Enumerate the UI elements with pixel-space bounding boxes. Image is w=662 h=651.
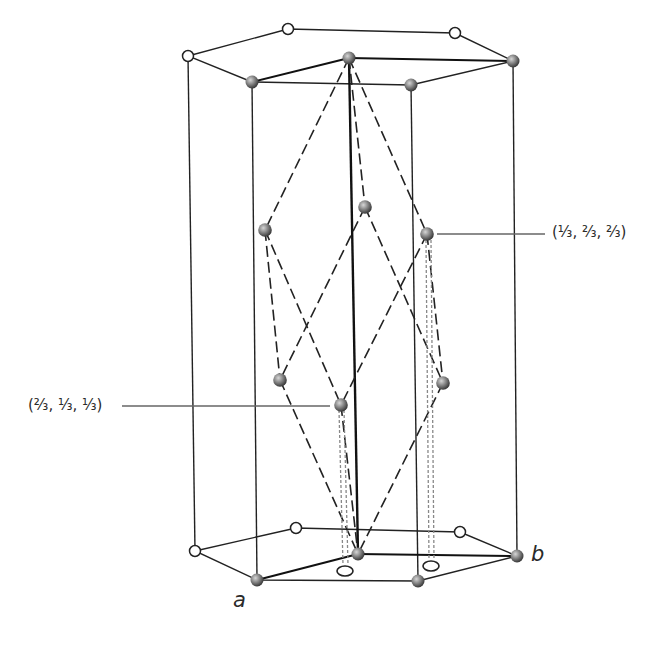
vertical-edge-left	[188, 56, 195, 551]
atom-interior	[258, 223, 272, 237]
atom-interior	[436, 376, 450, 390]
vertical-edge-front-right	[411, 85, 418, 581]
bottom-b-edge	[358, 554, 517, 556]
vertical-edge-right	[513, 61, 517, 556]
projection-rings	[337, 561, 439, 576]
projection-ring-right	[423, 561, 439, 571]
coordinate-label-lower: (⅔, ⅓, ⅓)	[28, 398, 102, 413]
atom-two-third-third-third	[334, 398, 348, 412]
atom-third-two-third-two-third	[420, 227, 434, 241]
axis-label-b: b	[531, 544, 544, 565]
shaded-atoms	[246, 52, 524, 588]
top-b-edge	[349, 58, 513, 61]
axis-label-a: a	[233, 590, 246, 611]
coordinate-label-upper: (⅓, ⅔, ⅔)	[552, 225, 626, 240]
vertical-edge-front-left	[252, 82, 257, 580]
hexagonal-unit-cell-diagram	[0, 0, 662, 651]
atom-interior	[358, 200, 372, 214]
atom-interior	[273, 373, 287, 387]
top-a-edge	[252, 58, 349, 82]
projection-ring-left	[337, 566, 353, 576]
leader-lines	[122, 234, 545, 406]
